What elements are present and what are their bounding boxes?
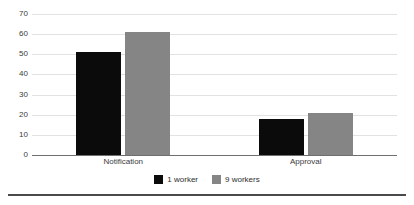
bar	[76, 52, 121, 155]
y-axis-tick-label: 10	[2, 131, 28, 139]
bar-chart-figure: 706050403020100 NotificationApproval 1 w…	[0, 0, 414, 205]
y-axis-tick-label: 0	[2, 151, 28, 159]
bottom-divider-rule	[8, 194, 406, 196]
chart-legend: 1 worker9 workers	[0, 175, 414, 184]
y-axis-tick-label: 50	[2, 50, 28, 58]
y-axis-tick-label: 60	[2, 30, 28, 38]
y-axis-tick-label: 70	[2, 10, 28, 18]
y-axis-tick-label: 30	[2, 91, 28, 99]
legend-label: 1 worker	[167, 176, 198, 184]
bar	[308, 113, 353, 155]
legend-item[interactable]: 1 worker	[154, 175, 198, 184]
y-axis-tick-label: 40	[2, 70, 28, 78]
bar	[259, 119, 304, 155]
legend-item[interactable]: 9 workers	[212, 175, 260, 184]
legend-swatch-icon	[154, 175, 163, 184]
x-axis-line	[32, 155, 397, 156]
legend-swatch-icon	[212, 175, 221, 184]
y-axis-tick-labels: 706050403020100	[0, 14, 28, 155]
y-axis-tick-label: 20	[2, 111, 28, 119]
gridline	[32, 14, 397, 15]
x-axis-category-label: Notification	[103, 158, 143, 166]
plot-area	[32, 14, 397, 155]
x-axis-category-label: Approval	[290, 158, 322, 166]
gridline	[32, 34, 397, 35]
x-axis-category-labels: NotificationApproval	[32, 158, 397, 172]
bar	[125, 32, 170, 155]
legend-label: 9 workers	[225, 176, 260, 184]
